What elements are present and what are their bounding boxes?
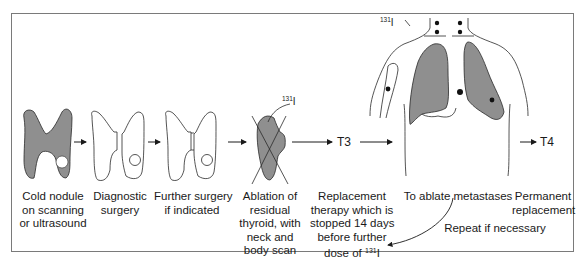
- caption-ablation: Ablation ofresidualthyroid, withneck and…: [238, 190, 302, 258]
- caption-permanent-replacement: Permanentreplacement: [512, 190, 574, 217]
- repeat-if-necessary-label: Repeat if necessary: [440, 222, 550, 236]
- t3-label: T3: [337, 135, 351, 149]
- lung-right-icon: [464, 42, 504, 119]
- caption-replacement-therapy: Replacementtherapy which isstopped 14 da…: [310, 190, 394, 261]
- isotope-label-torso: 131I: [380, 16, 394, 28]
- t4-label: T4: [540, 135, 554, 149]
- caption-diagnostic-surgery: Diagnosticsurgery: [91, 190, 149, 217]
- thyroid-with-cold-nodule-icon: [24, 109, 72, 178]
- residual-thyroid-ablation-icon: [252, 104, 290, 184]
- thyroid-diagnostic-surgery-icon: [92, 111, 144, 180]
- lung-left-icon: [409, 44, 448, 125]
- isotope-label-ablation: 131I: [282, 95, 296, 107]
- caption-further-surgery: Further surgeryif indicated: [154, 190, 230, 217]
- torso-metastases-icon: [370, 18, 528, 176]
- caption-cold-nodule: Cold noduleon scanningor ultrasound: [18, 190, 88, 231]
- thyroid-further-surgery-icon: [166, 111, 216, 180]
- caption-ablate-metastases: To ablate metastases: [403, 190, 513, 204]
